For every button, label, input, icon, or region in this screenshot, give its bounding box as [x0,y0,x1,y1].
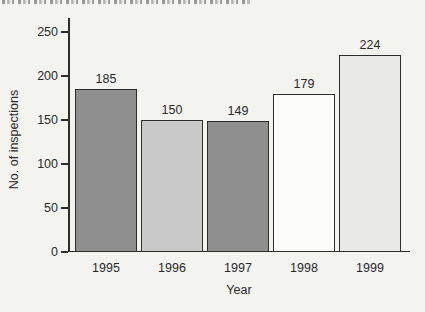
y-tick-mark [61,251,68,252]
y-tick-mark [61,119,68,120]
clipped-text-remnant [2,0,250,4]
y-tick-label: 0 [26,245,58,259]
bar-1998 [273,94,335,252]
y-tick-label: 50 [26,201,58,215]
bar-1999 [339,55,401,252]
y-tick-label: 100 [26,157,58,171]
y-tick-label: 150 [26,113,58,127]
x-axis-title: Year [68,283,410,297]
bar-1996 [141,120,203,252]
bar-value-label: 185 [65,72,147,86]
y-tick-mark [61,163,68,164]
y-tick-label: 250 [26,25,58,39]
y-axis-line [68,18,70,252]
bar-value-label: 179 [263,77,345,91]
y-tick-label: 200 [26,69,58,83]
x-tick-label: 1999 [329,261,411,275]
bar-value-label: 224 [329,38,411,52]
bar-value-label: 149 [197,104,279,118]
y-axis-title: No. of inspections [7,75,22,205]
y-tick-mark [61,207,68,208]
scanned-figure-page: No. of inspections 050100150200250 18515… [0,0,425,312]
bar-1997 [207,121,269,252]
y-tick-mark [61,31,68,32]
bar-1995 [75,89,137,252]
